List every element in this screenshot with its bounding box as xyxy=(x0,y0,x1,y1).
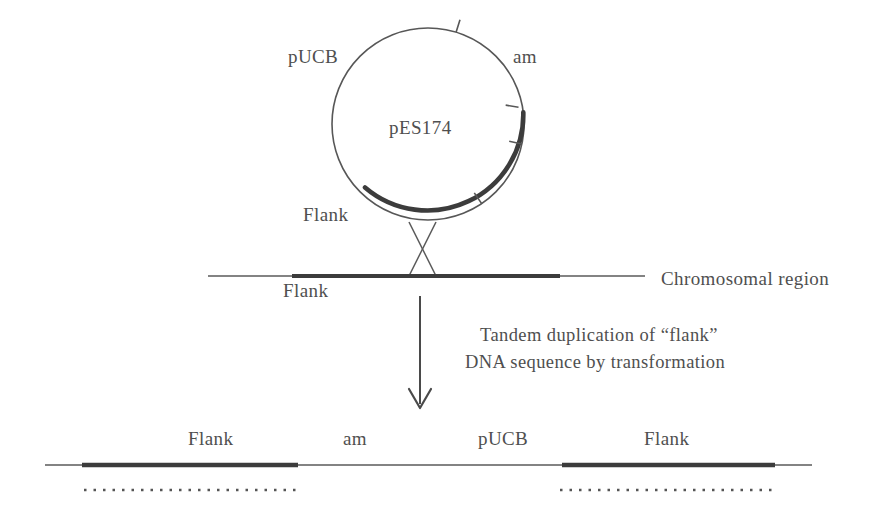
product-label-flank-left: Flank xyxy=(188,428,233,450)
transformation-arrow xyxy=(409,296,431,408)
product-label-flank-right: Flank xyxy=(644,428,689,450)
plasmid-tick-1 xyxy=(456,20,460,32)
diagram-vector-layer xyxy=(0,0,884,512)
plasmid-name-label: pES174 xyxy=(389,117,452,139)
plasmid-tick-2 xyxy=(506,105,519,107)
product-label-am: am xyxy=(343,428,367,450)
chromosome-flank-label: Flank xyxy=(283,280,328,302)
figure-canvas: pUCB am pES174 Flank Chromosomal region … xyxy=(0,0,884,512)
caption-line-2: DNA sequence by transformation xyxy=(465,352,725,373)
plasmid-label-am: am xyxy=(513,46,537,68)
plasmid-label-pucb: pUCB xyxy=(288,46,338,68)
chromosomal-region-label: Chromosomal region xyxy=(661,268,829,290)
crossover-x xyxy=(409,222,436,276)
plasmid-label-flank: Flank xyxy=(303,204,348,226)
caption-line-1: Tandem duplication of “flank” xyxy=(480,325,718,346)
product-label-pucb: pUCB xyxy=(478,428,528,450)
product-line-group xyxy=(45,465,812,490)
plasmid-group xyxy=(332,20,524,276)
